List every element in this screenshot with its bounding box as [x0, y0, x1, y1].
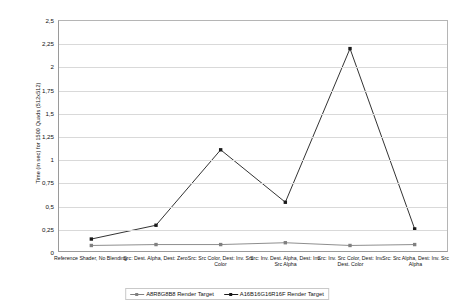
y-axis-tick-label: 2,25 — [18, 40, 54, 47]
x-axis-tick-label: Src: Src Alpha, Dest: Inv. Src Alpha — [379, 255, 453, 268]
x-axis-tick-label: Reference Shader, No Blending — [54, 255, 128, 261]
gridline — [59, 230, 447, 231]
chart-legend: A8R8G8B8 Render TargetA16B16G16R16F Rend… — [125, 288, 329, 300]
data-point-marker — [348, 47, 351, 50]
legend-label: A16B16G16R16F Render Target — [240, 291, 324, 297]
y-axis-tick-label: 2 — [18, 63, 54, 70]
gridline — [59, 114, 447, 115]
x-axis-tick-label: Src: Inv. Src Color, Dest: Inv. Dest. Co… — [314, 255, 388, 268]
y-axis-tick-label: 0,5 — [18, 202, 54, 209]
x-axis-tick-label: Src: Inv. Dest. Alpha, Dest: Inv. Src Al… — [249, 255, 323, 268]
series-line — [91, 243, 414, 246]
gridline — [59, 91, 447, 92]
series-a16b16g16r16f — [90, 47, 417, 241]
gridline — [59, 160, 447, 161]
y-axis-tick-labels: 00,250,50,7511,251,51,7522,252,5 — [18, 0, 54, 308]
data-point-marker — [154, 243, 157, 246]
legend-marker-icon — [224, 291, 238, 297]
plot-series-layer — [59, 21, 447, 251]
y-axis-tick-label: 1,75 — [18, 86, 54, 93]
data-point-marker — [348, 244, 351, 247]
gridline — [59, 44, 447, 45]
x-axis-tick-label: Src: Src Color, Dest: Inv. Src Color — [184, 255, 258, 268]
data-point-marker — [219, 148, 222, 151]
series-line — [91, 49, 414, 239]
y-axis-tick-label: 1,5 — [18, 109, 54, 116]
data-point-marker — [413, 243, 416, 246]
gridline — [59, 183, 447, 184]
gridline — [59, 207, 447, 208]
legend-marker-icon — [130, 291, 144, 297]
legend-label: A8R8G8B8 Render Target — [146, 291, 214, 297]
data-point-marker — [219, 243, 222, 246]
data-point-marker — [90, 244, 93, 247]
y-axis-tick-label: 0,75 — [18, 179, 54, 186]
gridline — [59, 137, 447, 138]
line-chart: Time (in sec) for 1500 Quads (512x512) 0… — [0, 0, 454, 308]
legend-entry[interactable]: A8R8G8B8 Render Target — [130, 291, 214, 297]
gridline — [59, 67, 447, 68]
y-axis-tick-label: 1 — [18, 156, 54, 163]
legend-entry[interactable]: A16B16G16R16F Render Target — [224, 291, 324, 297]
data-point-marker — [284, 201, 287, 204]
y-axis-tick-label: 1,25 — [18, 133, 54, 140]
series-a8r8g8b8 — [90, 241, 417, 247]
data-point-marker — [154, 224, 157, 227]
x-axis-tick-labels: Reference Shader, No BlendingSrc: Dest. … — [58, 255, 448, 281]
data-point-marker — [284, 241, 287, 244]
plot-area — [58, 20, 448, 252]
data-point-marker — [90, 237, 93, 240]
y-axis-tick-label: 0,25 — [18, 225, 54, 232]
y-axis-tick-label: 0 — [18, 249, 54, 256]
x-axis-tick-label: Src: Dest. Alpha, Dest: Zero — [119, 255, 193, 261]
y-axis-tick-label: 2,5 — [18, 17, 54, 24]
